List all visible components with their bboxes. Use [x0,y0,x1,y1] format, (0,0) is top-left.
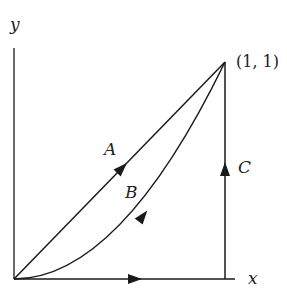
path-a-label: A [104,141,116,158]
x-axis-label: x [248,270,258,287]
arrow-b-icon [135,207,151,224]
arrow-c-vertical-icon [220,162,230,176]
path-diagram [0,0,287,299]
arrow-c-horizontal-icon [128,274,142,284]
path-b-label: B [125,184,138,201]
y-axis-label: y [10,16,20,33]
path-c-label: C [238,159,251,176]
point-label: (1, 1) [236,54,279,70]
